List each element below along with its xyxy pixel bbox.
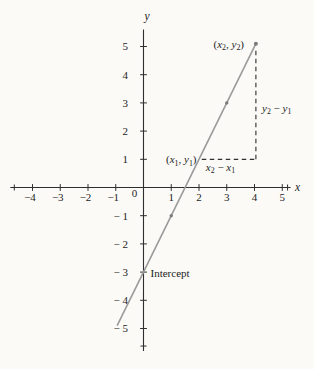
data-point bbox=[254, 42, 258, 46]
data-point bbox=[170, 214, 173, 217]
y-tick-label: − 2 bbox=[114, 238, 128, 250]
x-tick-label: 3 bbox=[224, 191, 230, 203]
y-tick-label: − 1 bbox=[114, 210, 128, 222]
x-tick-label: −3 bbox=[52, 191, 64, 203]
point1-label: (x1, y1) bbox=[166, 153, 197, 168]
rise-label: y2 − y1 bbox=[261, 102, 291, 117]
x-axis-letter: x bbox=[294, 181, 301, 193]
y-tick-label: 3 bbox=[123, 97, 129, 109]
y-tick-label: − 4 bbox=[114, 294, 129, 306]
point2-label: (x2, y2) bbox=[213, 38, 244, 53]
x-tick-label: −4 bbox=[24, 191, 36, 203]
y-axis-letter: y bbox=[143, 10, 150, 23]
y-tick-label: 1 bbox=[123, 153, 129, 165]
x-tick-label: 2 bbox=[196, 191, 202, 203]
origin-label: 0 bbox=[132, 187, 138, 199]
figure-canvas: −4−3−2−11234554321− 1− 2− 3− 4− 50xy(x2,… bbox=[0, 0, 314, 369]
x-tick-label: 4 bbox=[252, 191, 258, 203]
y-tick-label: 5 bbox=[123, 40, 129, 52]
y-tick-label: − 3 bbox=[114, 266, 129, 278]
x-tick-label: 5 bbox=[280, 191, 286, 203]
slope-line bbox=[117, 44, 256, 326]
y-tick-label: 4 bbox=[123, 69, 129, 81]
x-tick-label: −2 bbox=[80, 191, 92, 203]
intercept-label: Intercept bbox=[151, 267, 190, 279]
y-tick-label: − 5 bbox=[114, 322, 129, 334]
x-tick-label: −1 bbox=[107, 191, 119, 203]
run-label: x2 − x1 bbox=[205, 161, 235, 176]
data-point bbox=[225, 101, 228, 104]
x-tick-label: 1 bbox=[169, 191, 175, 203]
slope-intercept-graph: −4−3−2−11234554321− 1− 2− 3− 4− 50xy(x2,… bbox=[0, 0, 314, 369]
y-tick-label: 2 bbox=[123, 125, 129, 137]
